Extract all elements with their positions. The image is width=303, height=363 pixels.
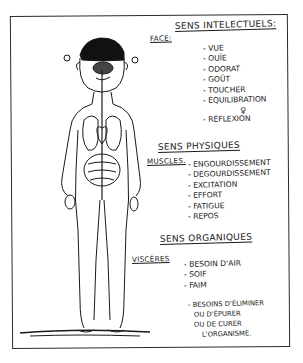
region-label: Viscères [132,255,170,263]
sense-list: Besoin d'air Soif Faim [184,260,241,291]
list-item: Réflexion [203,114,251,126]
list-item: Repos [188,210,271,223]
needs-list: - Besoins d'éliminer ou d'épurer ou de c… [188,300,264,340]
list-item: Équilibration [203,94,267,106]
region-label: Muscles. [147,157,186,165]
list-item: l'organisme. [188,328,264,340]
sense-list: Engourdissement Dégourdissement Excitati… [188,160,271,222]
region-label: Face: [150,34,172,42]
sense-list-continued: Réflexion [203,115,251,125]
sense-list: Vue Ouïe Odorat Goût Toucher Équilibrati… [203,44,267,106]
list-item: Faim [184,279,241,291]
